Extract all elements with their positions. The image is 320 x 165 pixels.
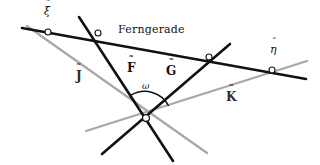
vertex-marker-common [143, 115, 150, 122]
label-ferngerade: Ferngerade [118, 24, 185, 35]
line-G [102, 44, 230, 154]
tilde-accent-xi: ˜ [45, 0, 50, 9]
line-F [79, 17, 173, 161]
vertex-marker-eta [269, 67, 275, 73]
tilde-accent-f: ˜ [129, 55, 134, 65]
label-eta-ideal-point: ˜ η [270, 44, 277, 55]
label-line-J: ˜ J [76, 70, 82, 82]
label-xi-ideal-point: ˜ ξ [44, 6, 50, 17]
tilde-accent-g: ˜ [169, 58, 174, 68]
label-line-K: ˜ K [226, 91, 236, 103]
label-line-G: ˜ G [166, 65, 176, 77]
tilde-accent-k: ˜ [229, 84, 234, 94]
label-line-F: ˜ F [127, 62, 136, 74]
vertex-marker-xi [45, 29, 51, 35]
diagram-canvas: ˜ ξ Ferngerade ˜ η ˜ J ˜ F ˜ G ˜ K [0, 0, 320, 165]
tilde-accent-eta: ˜ [271, 38, 276, 47]
label-angle-omega: ω [142, 82, 149, 91]
tilde-accent-j: ˜ [76, 63, 81, 73]
vertex-marker-f-ferngerade [95, 30, 101, 36]
vertex-marker-g-ferngerade [206, 54, 212, 60]
